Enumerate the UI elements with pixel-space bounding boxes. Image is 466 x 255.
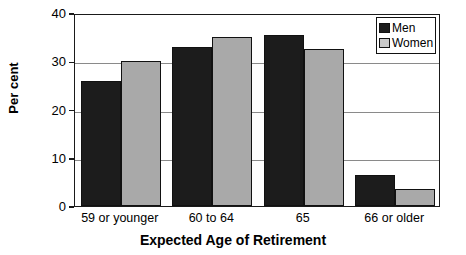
legend-item-men: Men — [379, 21, 433, 35]
bar-men-0 — [81, 81, 121, 206]
y-tick-label-40: 40 — [36, 7, 66, 20]
legend-label-men: Men — [392, 22, 415, 34]
bar-women-2 — [304, 49, 344, 206]
legend-label-women: Women — [392, 37, 433, 49]
bar-women-3 — [395, 189, 435, 206]
legend-item-women: Women — [379, 36, 433, 50]
men-swatch-icon — [379, 23, 390, 33]
women-swatch-icon — [379, 38, 390, 48]
y-tick-label-30: 30 — [36, 55, 66, 68]
y-axis-title: Per cent — [6, 38, 26, 138]
y-tick-label-10: 10 — [36, 152, 66, 165]
bar-men-3 — [355, 175, 395, 206]
bar-men-1 — [172, 47, 212, 206]
bar-women-1 — [212, 37, 252, 206]
x-tick-label-3: 66 or older — [334, 211, 454, 225]
x-axis-title: Expected Age of Retirement — [0, 232, 466, 248]
y-tick-label-20: 20 — [36, 104, 66, 117]
bar-women-0 — [121, 61, 161, 206]
bar-men-2 — [264, 35, 304, 206]
bar-chart: Per cent 010203040 Men Women 59 or young… — [0, 0, 466, 255]
legend: Men Women — [376, 17, 436, 54]
plot-area: Men Women — [74, 14, 440, 207]
